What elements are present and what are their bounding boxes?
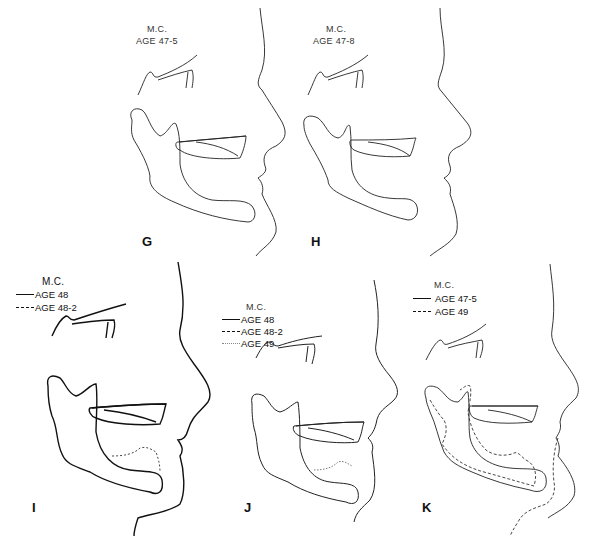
panel-letter: J [244, 500, 251, 515]
panel-j: M.C. AGE 48 AGE 48-2 AGE 49 J [200, 260, 400, 538]
panel-letter: G [142, 234, 152, 249]
jaw-profile-tracing [0, 0, 300, 260]
panel-letter: I [32, 500, 36, 515]
panel-letter: H [311, 234, 320, 249]
panel-h: M.C. AGE 47-8 H [290, 0, 597, 260]
jaw-profile-tracing [400, 260, 597, 538]
panel-g: M.C. AGE 47-5 G [0, 0, 300, 260]
panel-i: M.C. AGE 48 AGE 48-2 I [0, 260, 220, 538]
jaw-profile-tracing [0, 260, 220, 538]
panel-k: M.C. AGE 47-5 AGE 49 K [400, 260, 597, 538]
jaw-profile-tracing [200, 260, 400, 538]
panel-letter: K [422, 500, 431, 515]
jaw-profile-tracing [290, 0, 597, 260]
